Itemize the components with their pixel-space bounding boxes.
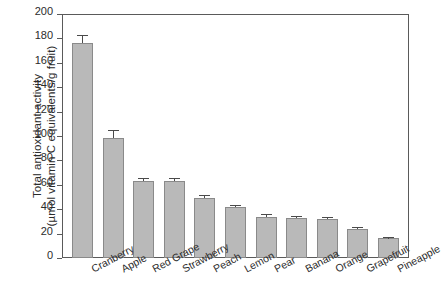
error-bar-stem [204,196,205,198]
error-bar-stem [296,217,297,218]
error-bar-cap [322,217,333,218]
error-bar-stem [357,228,358,229]
error-bar-stem [174,179,175,181]
error-bar-cap [108,130,119,131]
y-axis-tick-label: 140 [35,79,53,90]
y-axis-tick-label: 100 [35,128,53,139]
bar-group[interactable] [103,127,124,258]
bar-group[interactable] [164,175,185,258]
error-bar-cap [169,178,180,179]
error-bar-cap [138,178,149,179]
error-bar-cap [230,205,241,206]
error-bar-cap [352,227,363,228]
error-bar-cap [383,237,394,238]
error-bar-cap [199,195,210,196]
y-axis-tick-label: 40 [41,201,53,212]
error-bar-stem [327,218,328,219]
y-axis-tick-label: 160 [35,55,53,66]
error-bar-cap [291,216,302,217]
error-bar-stem [82,36,83,43]
bar-group[interactable] [286,213,307,258]
y-axis-tick-label: 180 [35,30,53,41]
bar[interactable] [72,43,93,258]
y-axis-tick-label: 120 [35,104,53,115]
error-bar-stem [266,215,267,216]
error-bar-stem [143,179,144,181]
x-axis-category-labels: CranberryAppleRed GrapeStrawberryPeachLe… [62,258,409,296]
error-bar-stem [235,206,236,207]
bar[interactable] [103,138,124,258]
error-bar-stem [388,238,389,239]
bar-group[interactable] [133,175,154,258]
error-bar-stem [113,131,114,138]
bar-group[interactable] [72,32,93,258]
y-axis-tick-label: 200 [35,6,53,17]
error-bar-cap [261,214,272,215]
y-axis-tick-label: 20 [41,226,53,237]
bars-layer [62,14,409,258]
y-axis-tick-label: 80 [41,152,53,163]
bar[interactable] [286,218,307,258]
bar[interactable] [133,181,154,258]
y-axis-tick-label: 60 [41,177,53,188]
error-bar-cap [77,35,88,36]
y-axis-tick-label: 0 [47,250,53,261]
